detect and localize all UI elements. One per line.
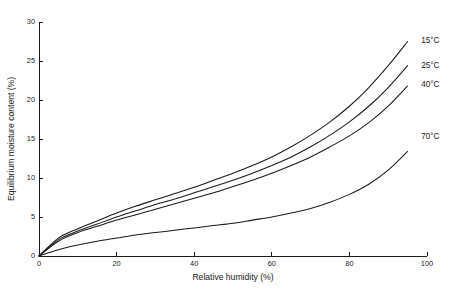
y-axis-title: Equilibrium moisture content (%): [6, 77, 16, 201]
x-tick-label: 20: [112, 259, 120, 268]
x-axis-ticks: 020406080100: [37, 252, 433, 268]
curve-70C: [39, 151, 408, 256]
y-tick-label: 25: [27, 56, 35, 65]
x-tick-label: 100: [421, 259, 433, 268]
y-tick-label: 10: [27, 173, 35, 182]
y-axis-ticks: 051015202530: [27, 17, 43, 260]
series-label-15C: 15°C: [421, 36, 439, 45]
y-tick-label: 5: [31, 212, 35, 221]
x-axis-title: Relative humidity (%): [192, 272, 273, 282]
series-label-40C: 40°C: [421, 80, 439, 89]
y-tick-label: 20: [27, 95, 35, 104]
series-label-25C: 25°C: [421, 61, 439, 70]
equilibrium-moisture-chart: 051015202530 020406080100 15°C25°C40°C70…: [0, 0, 451, 295]
chart-page: 051015202530 020406080100 15°C25°C40°C70…: [0, 0, 451, 295]
y-tick-label: 0: [31, 251, 35, 260]
series-label-70C: 70°C: [421, 132, 439, 141]
x-tick-label: 60: [268, 259, 276, 268]
x-tick-label: 40: [190, 259, 198, 268]
curve-40C: [39, 86, 408, 256]
x-tick-label: 0: [37, 259, 41, 268]
x-tick-label: 80: [345, 259, 353, 268]
series-labels: 15°C25°C40°C70°C: [421, 36, 439, 141]
curve-15C: [39, 42, 408, 257]
y-tick-label: 30: [27, 17, 35, 26]
y-tick-label: 15: [27, 134, 35, 143]
data-curves: [39, 42, 408, 257]
